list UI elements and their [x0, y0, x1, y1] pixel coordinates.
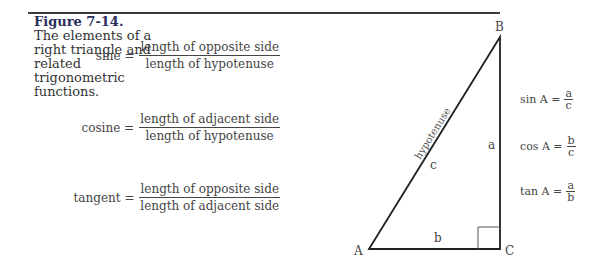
vertex-c-label: C — [505, 244, 514, 258]
ratio-lhs: tan A = — [520, 185, 562, 198]
ratio-lhs: cos A = — [520, 140, 563, 153]
right-angle-marker — [478, 227, 500, 249]
fraction: b c — [567, 135, 576, 158]
right-triangle: hypotenuse — [0, 0, 607, 268]
fraction: a c — [564, 88, 573, 111]
denominator: b — [566, 192, 575, 203]
sin-ratio: sin A = a c — [520, 88, 573, 111]
denominator: c — [567, 147, 575, 158]
hypotenuse-label: hypotenuse — [412, 106, 452, 161]
ratio-lhs: sin A = — [520, 93, 560, 106]
vertex-b-label: B — [495, 20, 504, 34]
triangle-shape — [369, 37, 500, 249]
vertex-a-label: A — [354, 244, 363, 258]
side-b-label: b — [434, 231, 442, 245]
side-c-label: c — [430, 158, 437, 172]
fraction: a b — [566, 180, 575, 203]
tan-ratio: tan A = a b — [520, 180, 575, 203]
cos-ratio: cos A = b c — [520, 135, 576, 158]
denominator: c — [565, 100, 573, 111]
side-a-label: a — [488, 138, 495, 152]
